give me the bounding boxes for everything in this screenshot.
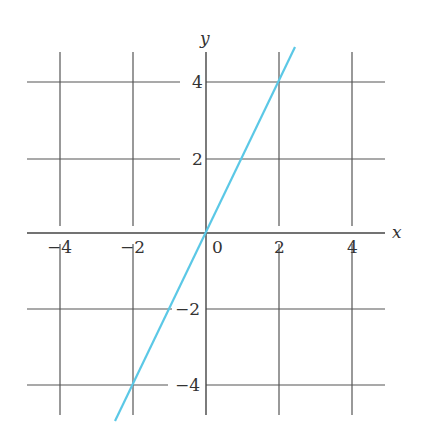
y-axis-label: y xyxy=(199,28,210,48)
x-tick-0: 0 xyxy=(212,237,223,257)
x-tick-neg2: −2 xyxy=(120,237,145,257)
y-tick-2: 2 xyxy=(192,149,203,169)
x-tick-neg4: −4 xyxy=(47,237,72,257)
x-tick-4: 4 xyxy=(347,237,358,257)
y-tick-neg4: −4 xyxy=(175,375,200,395)
y-tick-neg2: −2 xyxy=(175,299,200,319)
x-axis-label: x xyxy=(392,222,402,242)
data-line-y-equals-2x xyxy=(115,47,295,421)
coordinate-plane: x y −4 −2 0 2 4 4 2 −2 −4 xyxy=(0,0,430,445)
x-tick-2: 2 xyxy=(274,237,285,257)
y-tick-4: 4 xyxy=(192,72,203,92)
